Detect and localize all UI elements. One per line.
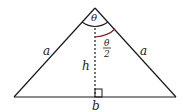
- left-side: [14, 8, 95, 97]
- left-side-label: a: [43, 44, 50, 58]
- triangle-diagram: θ θ 2 a a h b: [0, 0, 183, 112]
- height-label: h: [82, 59, 90, 73]
- half-angle-denominator: 2: [103, 49, 110, 59]
- half-angle-arc: [95, 29, 115, 37]
- apex-angle-label: θ: [91, 12, 97, 23]
- right-side-label: a: [140, 44, 147, 58]
- base-label: b: [92, 99, 100, 112]
- right-angle-marker: [95, 89, 102, 97]
- half-angle-numerator: θ: [104, 38, 110, 48]
